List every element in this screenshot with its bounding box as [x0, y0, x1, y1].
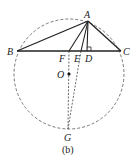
label-D: D — [84, 53, 93, 64]
label-B: B — [7, 46, 13, 57]
label-E: E — [73, 53, 80, 64]
label-G: G — [64, 132, 71, 143]
label-A: A — [83, 9, 91, 20]
label-F: F — [58, 53, 66, 64]
segment-FG — [68, 51, 69, 129]
segment-AC — [88, 21, 121, 51]
label-O: O — [57, 69, 64, 80]
segment-AB — [17, 21, 88, 51]
label-C: C — [123, 46, 130, 57]
center-point-O — [67, 72, 70, 75]
geometry-figure: A B C F E D O G (b) — [0, 0, 139, 164]
figure-caption: (b) — [62, 144, 74, 156]
